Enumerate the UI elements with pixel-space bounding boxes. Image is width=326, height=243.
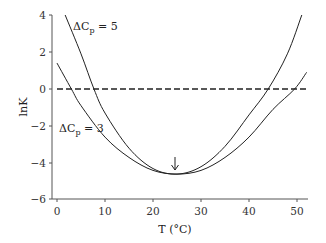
y-tick-label: −2	[31, 120, 46, 132]
lnk-vs-temperature-chart: 4 2 0 −2 −4 −6 0 10 20 30 40 50 T (°C) l…	[0, 0, 326, 243]
x-tick-label: 10	[98, 205, 111, 217]
x-tick-label: 30	[194, 205, 207, 217]
y-tick-label: 0	[39, 83, 46, 95]
y-tick-label: −4	[31, 157, 47, 169]
label-dcp-5: ΔCp = 5	[73, 20, 118, 35]
label-dcp-3: ΔCp = 3	[59, 122, 104, 137]
x-tick-label: 50	[290, 205, 303, 217]
x-tick-label: 20	[146, 205, 159, 217]
x-tick-label: 0	[54, 205, 61, 217]
y-tick-label: 4	[39, 9, 46, 21]
curve-dcp-3	[57, 63, 307, 174]
x-axis-label: T (°C)	[158, 223, 191, 236]
minimum-arrow-icon	[172, 157, 179, 170]
x-tick-labels: 0 10 20 30 40 50	[54, 205, 304, 217]
y-tick-label: −6	[31, 193, 47, 205]
y-tick-labels: 4 2 0 −2 −4 −6	[31, 9, 47, 205]
y-tick-label: 2	[39, 46, 46, 58]
y-axis-label: lnK	[17, 97, 30, 117]
x-tick-label: 40	[242, 205, 255, 217]
curve-dcp-5	[65, 15, 302, 174]
